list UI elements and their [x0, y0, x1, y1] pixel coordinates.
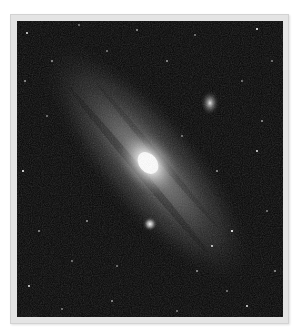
galaxy-photo: [17, 21, 283, 317]
galaxy-image: [17, 21, 283, 317]
